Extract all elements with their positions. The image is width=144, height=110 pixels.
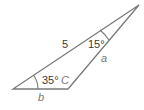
vertex-label-c: C: [61, 74, 69, 86]
triangle-outline: [13, 5, 139, 89]
side-label-b: b: [38, 91, 44, 103]
angle-label-35: 35°: [42, 74, 59, 86]
angle-label-15: 15°: [88, 38, 105, 50]
side-label-a: a: [101, 52, 107, 64]
angle-arc-35: [34, 75, 39, 89]
side-label-5: 5: [62, 38, 68, 50]
triangle-diagram: 5 15° a 35° C b: [0, 0, 144, 110]
